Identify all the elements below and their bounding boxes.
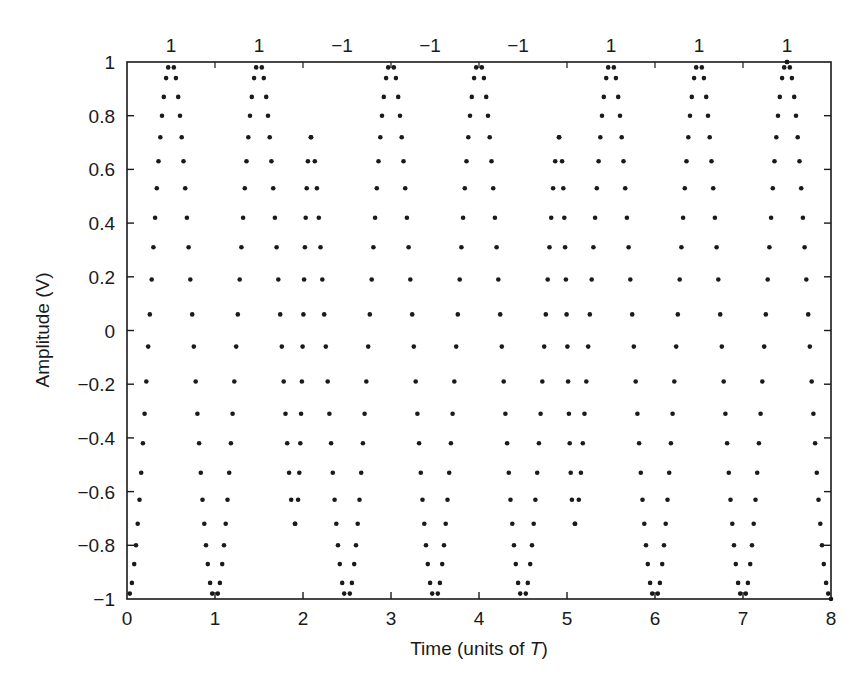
data-point [688, 113, 693, 118]
data-point [804, 277, 809, 282]
data-point [410, 312, 415, 317]
x-axis: 012345678 [122, 62, 837, 629]
data-point [428, 581, 433, 586]
data-point [746, 581, 751, 586]
data-point [744, 591, 749, 596]
data-point [266, 113, 271, 118]
data-points [128, 60, 834, 602]
data-point [489, 159, 494, 164]
data-point [417, 441, 422, 446]
data-point [560, 159, 565, 164]
data-point [500, 344, 505, 349]
data-point [826, 591, 831, 596]
data-point [716, 277, 721, 282]
data-point [621, 159, 626, 164]
data-point [690, 95, 695, 100]
data-point [663, 522, 668, 527]
data-point [565, 344, 570, 349]
data-point [524, 591, 529, 596]
data-point [782, 65, 787, 70]
data-point [507, 471, 512, 476]
data-point [303, 215, 308, 220]
data-point [396, 95, 401, 100]
data-point [794, 113, 799, 118]
data-point [795, 135, 800, 140]
data-point [197, 441, 202, 446]
data-point [566, 379, 571, 384]
data-point [406, 245, 411, 250]
data-point [809, 379, 814, 384]
data-point [713, 215, 718, 220]
y-tick-label: 0.6 [89, 159, 115, 180]
data-point [584, 379, 589, 384]
data-point [206, 562, 211, 567]
x-tick-label: 1 [210, 608, 221, 629]
data-point [208, 581, 213, 586]
plot-frame [127, 62, 831, 599]
data-point [450, 411, 455, 416]
data-point [706, 113, 711, 118]
data-point [304, 186, 309, 191]
bit-label: 1 [166, 35, 177, 56]
data-point [132, 562, 137, 567]
data-point [764, 312, 769, 317]
data-point [811, 411, 816, 416]
data-point [200, 497, 205, 502]
data-point [134, 543, 139, 548]
data-point [632, 344, 637, 349]
data-point [516, 581, 521, 586]
data-point [199, 471, 204, 476]
data-point [704, 95, 709, 100]
data-point [419, 471, 424, 476]
data-point [573, 522, 578, 527]
data-point [802, 245, 807, 250]
data-point [588, 312, 593, 317]
data-point [260, 65, 265, 70]
data-point [616, 95, 621, 100]
data-point [210, 591, 215, 596]
data-point [614, 76, 619, 81]
data-point [670, 411, 675, 416]
data-point [503, 411, 508, 416]
data-point [586, 344, 591, 349]
data-point [368, 312, 373, 317]
data-point [818, 522, 823, 527]
data-point [676, 312, 681, 317]
amplitude-time-chart: 11−1−1−1111 012345678 10.80.60.40.20−0.2… [0, 0, 867, 689]
data-point [222, 543, 227, 548]
data-point [278, 312, 283, 317]
x-tick-label: 5 [562, 608, 573, 629]
data-point [223, 522, 228, 527]
data-point [338, 562, 343, 567]
data-point [315, 186, 320, 191]
x-tick-label: 6 [650, 608, 661, 629]
data-point [250, 95, 255, 100]
data-point [602, 95, 607, 100]
data-point [158, 135, 163, 140]
data-point [567, 411, 572, 416]
data-point [442, 543, 447, 548]
data-point [273, 215, 278, 220]
data-point [301, 312, 306, 317]
data-point [232, 379, 237, 384]
data-point [276, 277, 281, 282]
y-tick-label: 0.8 [89, 106, 115, 127]
data-point [135, 522, 140, 527]
data-point [229, 441, 234, 446]
data-point [438, 581, 443, 586]
data-point [656, 591, 661, 596]
data-point [727, 471, 732, 476]
data-point [780, 76, 785, 81]
data-point [562, 215, 567, 220]
data-point [398, 113, 403, 118]
data-point [164, 76, 169, 81]
data-point [227, 471, 232, 476]
data-point [672, 379, 677, 384]
data-point [142, 411, 147, 416]
data-point [563, 245, 568, 250]
data-point [440, 562, 445, 567]
data-point [366, 344, 371, 349]
data-point [244, 159, 249, 164]
y-tick-label: 0 [104, 321, 115, 342]
data-point [496, 277, 501, 282]
